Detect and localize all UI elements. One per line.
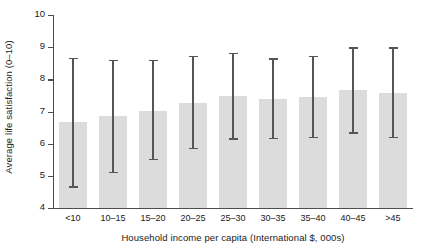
y-tick-mark [48,144,53,145]
x-tick-label: 10–15 [99,213,127,223]
error-bar-line [392,47,393,136]
bar-group: >45 [379,15,407,208]
y-tick-label: 10 [34,8,45,19]
bar-group: 10–15 [99,15,127,208]
chart-figure: Average life satisfaction (0–10) 4567891… [0,0,423,252]
bar-group: 25–30 [219,15,247,208]
x-tick-label: 40–45 [339,213,367,223]
x-axis-title: Household income per capita (Internation… [53,232,413,243]
error-bar-line [272,58,273,137]
x-tick-label: 25–30 [219,213,247,223]
bar-group: 35–40 [299,15,327,208]
error-bar-cap-lower [69,186,78,187]
bar-group: 30–35 [259,15,287,208]
error-bar-line [352,47,353,132]
error-bar-line [192,56,193,148]
y-tick-label: 4 [40,201,45,212]
y-axis-line [53,15,54,208]
y-tick-mark [48,79,53,80]
error-bar-cap-lower [309,137,318,138]
y-tick-label: 8 [40,72,45,83]
y-tick-mark [48,47,53,48]
error-bar-cap-upper [109,60,118,61]
x-axis-line [53,208,413,209]
error-bar-line [72,58,73,186]
y-tick-mark [48,15,53,16]
error-bar-cap-upper [69,58,78,59]
plot-area: 45678910 <1010–1515–2020–2525–3030–3535–… [53,15,413,208]
bar-group: 40–45 [339,15,367,208]
error-bar-cap-upper [309,56,318,57]
error-bar-cap-upper [349,47,358,48]
error-bar-cap-lower [149,159,158,160]
error-bar-cap-lower [229,138,238,139]
y-tick-mark [48,208,53,209]
error-bar-cap-upper [229,53,238,54]
error-bar-cap-upper [389,47,398,48]
x-tick-label: 20–25 [179,213,207,223]
bar-group: 20–25 [179,15,207,208]
error-bar-line [152,60,153,159]
x-tick-label: 30–35 [259,213,287,223]
error-bar-cap-upper [189,56,198,57]
x-tick-label: 15–20 [139,213,167,223]
x-tick-label: <10 [59,213,87,223]
error-bar-line [232,53,233,138]
error-bar-cap-upper [269,58,278,59]
x-tick-label: >45 [379,213,407,223]
y-tick-label: 5 [40,169,45,180]
error-bar-cap-lower [389,137,398,138]
error-bar-cap-lower [269,138,278,139]
error-bar-cap-lower [109,172,118,173]
x-tick-label: 35–40 [299,213,327,223]
bar-group: <10 [59,15,87,208]
y-axis-title: Average life satisfaction (0–10) [2,2,16,212]
y-tick-label: 9 [40,40,45,51]
bar-group: 15–20 [139,15,167,208]
error-bar-line [312,56,313,137]
y-tick-mark [48,112,53,113]
y-tick-mark [48,176,53,177]
error-bar-line [112,60,113,172]
y-tick-label: 7 [40,105,45,116]
error-bar-cap-lower [189,148,198,149]
y-tick-label: 6 [40,137,45,148]
error-bar-cap-upper [149,60,158,61]
error-bar-cap-lower [349,132,358,133]
